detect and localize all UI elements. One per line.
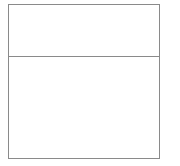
page-canvas: [0, 0, 180, 166]
table-row: [9, 5, 159, 57]
table-row: [9, 57, 159, 158]
two-row-table-frame: [8, 4, 160, 159]
bottom-cell-text: [9, 57, 159, 158]
top-cell-text: [9, 5, 159, 56]
